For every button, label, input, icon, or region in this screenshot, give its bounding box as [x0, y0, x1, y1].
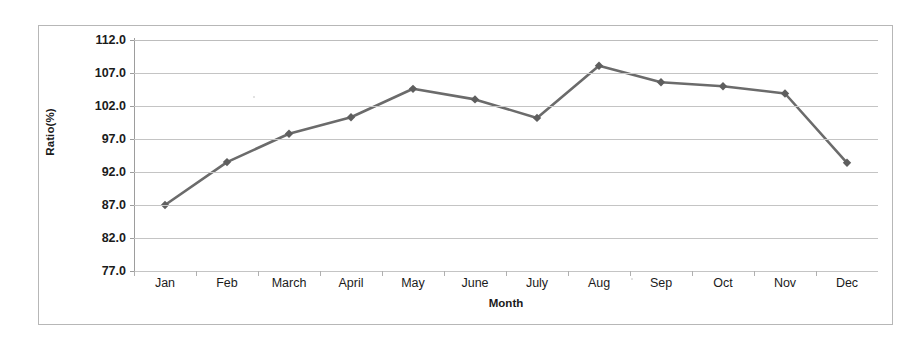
series-line [165, 66, 847, 205]
data-point-marker [347, 113, 355, 121]
x-axis-tick-label: Aug [588, 276, 610, 290]
data-point-marker [657, 78, 665, 86]
x-axis-tick-label: July [526, 276, 548, 290]
y-axis-tick-labels: 112.0107.0102.097.092.087.082.077.0 [70, 33, 132, 278]
y-axis-tick-label: 92.0 [68, 165, 126, 179]
x-axis-tick-label: May [401, 276, 425, 290]
data-point-marker [471, 95, 479, 103]
x-axis-title: Month [134, 297, 878, 309]
y-axis-tick-label: 82.0 [68, 231, 126, 245]
y-axis-tick-mark [130, 172, 134, 173]
x-axis-tick-label: Feb [216, 276, 238, 290]
y-axis-tick-mark [130, 40, 134, 41]
x-axis-tick-label: Sep [650, 276, 672, 290]
y-axis-tick-mark [130, 73, 134, 74]
x-axis-tick-label: Nov [774, 276, 796, 290]
gridline [134, 40, 878, 41]
x-axis-tick-label: Oct [713, 276, 732, 290]
x-axis-tick-label: April [338, 276, 363, 290]
y-axis-tick-mark [130, 205, 134, 206]
y-axis-tick-label: 112.0 [68, 33, 126, 47]
y-axis-tick-mark [130, 139, 134, 140]
y-axis-tick-label: 87.0 [68, 198, 126, 212]
data-point-marker [285, 130, 293, 138]
gridline [134, 139, 878, 140]
data-point-marker [409, 85, 417, 93]
y-axis-tick-label: 97.0 [68, 132, 126, 146]
gridline [134, 205, 878, 206]
x-axis-tick-label: Dec [836, 276, 858, 290]
data-point-marker [719, 82, 727, 90]
gridline [134, 106, 878, 107]
gridline [134, 73, 878, 74]
x-axis-tick-label: March [272, 276, 307, 290]
y-axis-tick-label: 77.0 [68, 264, 126, 278]
y-axis-tick-label: 107.0 [68, 66, 126, 80]
y-axis-tick-mark [130, 238, 134, 239]
x-axis-tick-label: Jan [155, 276, 175, 290]
x-axis-tick-label: June [461, 276, 488, 290]
x-axis-tick-labels: JanFebMarchAprilMayJuneJulyAugSepOctNovD… [134, 276, 878, 294]
gridline [134, 238, 878, 239]
gridline [134, 172, 878, 173]
line-series [134, 40, 878, 271]
y-axis-title: Ratio(%) [44, 87, 68, 177]
y-axis-tick-label: 102.0 [68, 99, 126, 113]
y-axis-tick-mark [130, 106, 134, 107]
plot-area [134, 40, 878, 271]
